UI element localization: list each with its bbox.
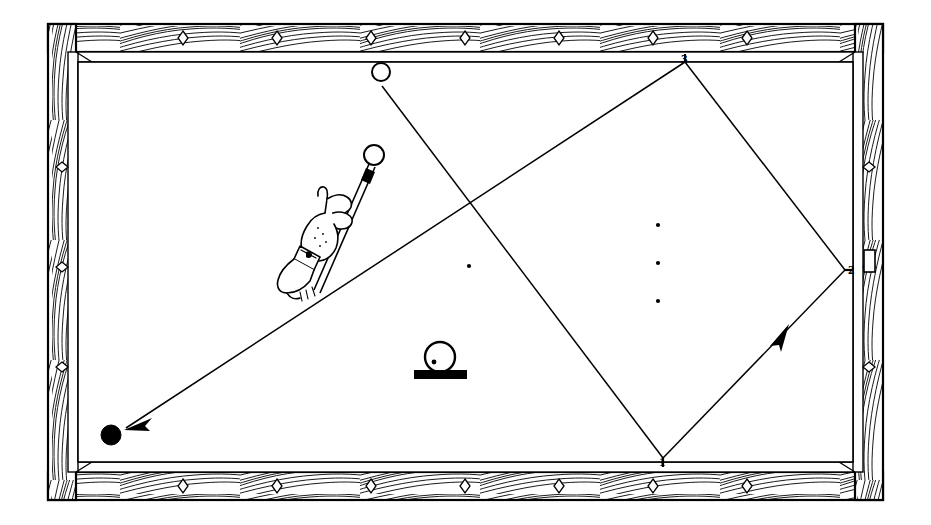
playing-surface [78,62,853,462]
object-ball-black [101,425,121,445]
diagram-canvas [0,0,931,525]
cue-ball-struck [364,145,384,165]
billiards-diagram: 1 2 3 Billiard table bank-shot diagram [0,0,931,525]
cushion-label-3: 3 [681,52,687,65]
right-rail-marker [864,250,875,272]
cushion-label-1: 1 [659,455,665,468]
cushion-label-2: 2 [848,263,854,276]
cue-ball-upper [372,63,390,81]
